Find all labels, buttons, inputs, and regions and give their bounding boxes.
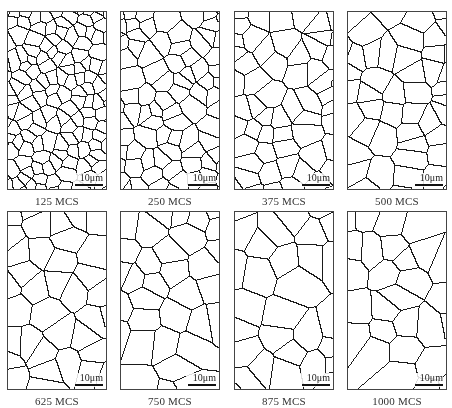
microstructure-image: 10μm [7, 11, 107, 190]
scale-bar-line [188, 384, 216, 386]
scale-bar-label: 10μm [193, 373, 216, 383]
scale-bar-line [302, 384, 330, 386]
scale-bar-line [415, 384, 443, 386]
scale-bar-line [75, 384, 103, 386]
panel-caption: 750 MCS [120, 395, 220, 407]
panel-caption: 1000 MCS [347, 395, 447, 407]
panel-caption: 875 MCS [234, 395, 334, 407]
scale-bar-line [302, 184, 330, 186]
scale-bar-label: 10μm [307, 173, 330, 183]
grain-growth-figure: 10μm 125 MCS 10μm 250 MCS 10μm 375 MCS 1… [0, 0, 452, 408]
panel-caption: 250 MCS [120, 195, 220, 207]
scale-bar-label: 10μm [80, 173, 103, 183]
panel-caption: 125 MCS [7, 195, 107, 207]
scale-bar-label: 10μm [420, 373, 443, 383]
scale-bar-label: 10μm [193, 173, 216, 183]
scale-bar: 10μm [413, 173, 443, 187]
scale-bar-label: 10μm [307, 373, 330, 383]
panel-caption: 500 MCS [347, 195, 447, 207]
scale-bar: 10μm [73, 373, 103, 387]
panel-caption: 625 MCS [7, 395, 107, 407]
scale-bar-line [415, 184, 443, 186]
scale-bar: 10μm [300, 373, 330, 387]
scale-bar-line [188, 184, 216, 186]
scale-bar: 10μm [73, 173, 103, 187]
scale-bar: 10μm [300, 173, 330, 187]
microstructure-image: 10μm [234, 211, 334, 390]
scale-bar-label: 10μm [420, 173, 443, 183]
panel-caption: 375 MCS [234, 195, 334, 207]
scale-bar: 10μm [413, 373, 443, 387]
scale-bar-line [75, 184, 103, 186]
microstructure-image: 10μm [347, 11, 447, 190]
microstructure-image: 10μm [7, 211, 107, 390]
microstructure-image: 10μm [120, 211, 220, 390]
scale-bar-label: 10μm [80, 373, 103, 383]
microstructure-image: 10μm [234, 11, 334, 190]
microstructure-image: 10μm [120, 11, 220, 190]
scale-bar: 10μm [186, 173, 216, 187]
microstructure-image: 10μm [347, 211, 447, 390]
scale-bar: 10μm [186, 373, 216, 387]
